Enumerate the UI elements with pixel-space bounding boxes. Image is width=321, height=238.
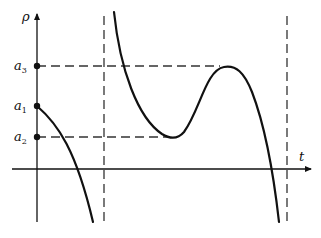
left-branch — [37, 106, 93, 222]
a3-label: a3 — [14, 58, 27, 75]
a2-dot — [34, 134, 40, 140]
a1-label: a1 — [14, 98, 27, 115]
a1-dot — [34, 103, 40, 109]
function-curve — [37, 12, 279, 222]
middle-branch — [114, 12, 279, 222]
a3-dot — [34, 63, 40, 69]
horizontal-axis-label: t — [299, 149, 305, 164]
function-graph: ρ t a3 a1 a2 — [0, 0, 321, 238]
dashed-guides — [37, 16, 287, 222]
vertical-axis-label: ρ — [21, 9, 30, 24]
a2-label: a2 — [14, 129, 27, 146]
